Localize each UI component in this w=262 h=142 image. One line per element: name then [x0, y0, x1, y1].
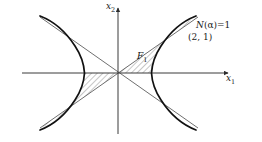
norm-function-symbol: N — [196, 20, 204, 30]
norm-value: =1 — [217, 20, 230, 30]
curve-annotation: N(α)=1 (2, 1) — [196, 20, 230, 43]
x-axis-label: x1 — [226, 74, 235, 85]
region-label-f1: F1 — [137, 52, 147, 63]
hyperbola-figure: x2 x1 N(α)=1 (2, 1) F1 — [0, 0, 262, 142]
norm-argument: (α) — [204, 20, 217, 30]
curve-norm-label: N(α)=1 — [196, 20, 230, 30]
y-axis-label: x2 — [106, 2, 115, 13]
curve-point-label: (2, 1) — [188, 32, 230, 44]
